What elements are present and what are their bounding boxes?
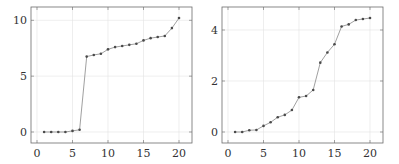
data-point-marker <box>269 121 272 124</box>
data-point-marker <box>241 131 244 134</box>
data-point-marker <box>164 35 167 38</box>
data-point-marker <box>255 129 258 132</box>
data-point-marker <box>319 61 322 64</box>
data-point-marker <box>149 37 152 40</box>
data-point-marker <box>78 128 81 131</box>
data-point-marker <box>369 17 372 20</box>
x-tick-label: 5 <box>260 147 267 160</box>
x-tick-label: 0 <box>34 147 41 160</box>
y-tick-label: 4 <box>211 24 218 37</box>
y-tick-label: 0 <box>20 126 27 139</box>
y-tick-label: 2 <box>211 75 218 88</box>
data-point-marker <box>178 17 181 20</box>
data-point-marker <box>50 131 53 134</box>
y-tick-label: 10 <box>13 14 27 27</box>
data-point-marker <box>355 19 358 22</box>
data-point-marker <box>171 27 174 30</box>
x-tick-label: 20 <box>172 147 186 160</box>
data-point-marker <box>333 43 336 46</box>
x-tick-label: 10 <box>292 147 306 160</box>
data-point-marker <box>100 53 103 56</box>
data-point-marker <box>248 129 251 132</box>
x-tick-label: 5 <box>69 147 76 160</box>
data-point-marker <box>93 54 96 57</box>
left-line-chart: 051015200510 <box>13 7 192 160</box>
x-tick-label: 20 <box>363 147 377 160</box>
data-point-marker <box>135 42 138 45</box>
data-point-marker <box>121 45 124 48</box>
data-point-marker <box>142 39 145 42</box>
data-point-marker <box>64 131 67 134</box>
x-tick-label: 10 <box>101 147 115 160</box>
data-point-marker <box>71 130 74 133</box>
right-line-chart: 05101520024 <box>211 7 383 160</box>
figure: 051015200510 05101520024 <box>0 0 399 164</box>
data-point-marker <box>298 96 301 99</box>
y-tick-label: 0 <box>211 126 218 139</box>
data-point-marker <box>114 46 117 49</box>
x-tick-label: 0 <box>225 147 232 160</box>
data-point-marker <box>340 25 343 28</box>
data-point-marker <box>276 116 279 119</box>
x-tick-label: 15 <box>328 147 342 160</box>
data-point-marker <box>234 131 237 134</box>
data-point-marker <box>326 51 329 54</box>
data-point-marker <box>57 131 60 134</box>
axes-frame <box>31 7 192 143</box>
data-point-marker <box>312 89 315 92</box>
data-series-line <box>44 18 179 132</box>
data-point-marker <box>43 131 46 134</box>
data-point-marker <box>305 95 308 98</box>
y-tick-label: 5 <box>20 70 27 83</box>
data-point-marker <box>347 23 350 26</box>
data-point-marker <box>262 125 265 128</box>
x-tick-label: 15 <box>137 147 151 160</box>
data-point-marker <box>291 109 294 112</box>
data-series-line <box>235 18 370 132</box>
data-point-marker <box>362 18 365 21</box>
data-point-marker <box>107 48 110 51</box>
data-point-marker <box>284 114 287 117</box>
data-point-marker <box>156 36 159 39</box>
data-point-marker <box>85 55 88 58</box>
axes-frame <box>222 7 383 143</box>
data-point-marker <box>128 44 131 47</box>
